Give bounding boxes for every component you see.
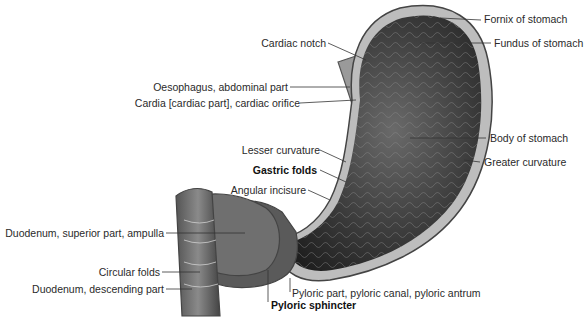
label-oesophagus-abdominal-part: Oesophagus, abdominal part xyxy=(153,81,288,93)
label-duodenum-superior-part: Duodenum, superior part, ampulla xyxy=(5,227,164,239)
label-gastric-folds: Gastric folds xyxy=(253,164,317,176)
label-duodenum-descending-part: Duodenum, descending part xyxy=(32,283,164,295)
label-body-of-stomach: Body of stomach xyxy=(490,132,568,144)
anatomy-diagram: Fornix of stomach Fundus of stomach Card… xyxy=(0,0,588,322)
label-fornix-of-stomach: Fornix of stomach xyxy=(484,13,567,25)
label-greater-curvature: Greater curvature xyxy=(484,156,566,168)
label-pyloric-part: Pyloric part, pyloric canal, pyloric ant… xyxy=(292,287,480,299)
label-angular-incisure: Angular incisure xyxy=(231,184,306,196)
label-lesser-curvature: Lesser curvature xyxy=(242,144,320,156)
label-pyloric-sphincter: Pyloric sphincter xyxy=(271,299,356,311)
label-cardiac-notch: Cardiac notch xyxy=(261,37,326,49)
label-fundus-of-stomach: Fundus of stomach xyxy=(494,37,583,49)
label-cardia: Cardia [cardiac part], cardiac orifice xyxy=(135,97,300,109)
label-circular-folds: Circular folds xyxy=(99,266,160,278)
